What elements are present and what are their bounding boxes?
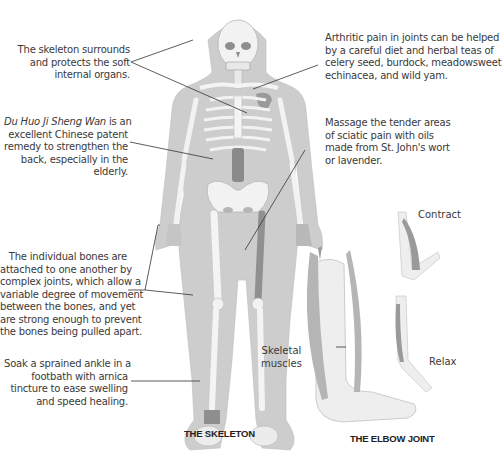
callout-line: attached to one another by xyxy=(0,264,127,277)
callout-line: of sciatic pain with oils xyxy=(325,130,485,143)
callout-line: made from St. John's wort xyxy=(325,142,485,155)
label-contract: Contract xyxy=(418,209,461,222)
callout-line: or lavender. xyxy=(325,155,485,168)
callout-text: is an xyxy=(106,116,132,127)
callout-line: echinacea, and wild yam. xyxy=(325,70,501,83)
callout-line: internal organs. xyxy=(6,69,130,82)
callout-line: excellent Chinese patent xyxy=(4,129,128,142)
callout-line: back, especially in the xyxy=(4,154,128,167)
callout-line: Du Huo Ji Sheng Wan is an xyxy=(4,116,128,129)
elbow-contract-illustration xyxy=(398,212,440,280)
callout-skeleton-protects: The skeleton surrounds and protects the … xyxy=(6,44,130,82)
callout-line: between the bones, and yet xyxy=(0,301,127,314)
callout-line: footbath with arnica xyxy=(4,371,128,384)
callout-line: the bones being pulled apart. xyxy=(0,326,127,339)
callout-line: Arthritic pain in joints can be helped xyxy=(325,32,501,45)
lumbar-spine-highlight xyxy=(232,148,244,182)
callout-du-huo: Du Huo Ji Sheng Wan is an excellent Chin… xyxy=(4,116,128,179)
elbow-relax-illustration xyxy=(396,296,433,392)
label-line: muscles xyxy=(261,358,302,371)
callout-joints: The individual bones are attached to one… xyxy=(0,251,127,339)
callout-ankle: Soak a sprained ankle in a footbath with… xyxy=(4,358,128,408)
label-line: Skeletal xyxy=(261,345,302,358)
callout-line: remedy to strengthen the xyxy=(4,141,128,154)
callout-line: elderly. xyxy=(4,166,128,179)
sternum xyxy=(234,96,242,138)
ankle-highlight xyxy=(204,410,220,424)
callout-line: complex joints, which allow a xyxy=(0,276,127,289)
callout-line: The individual bones are xyxy=(0,251,127,264)
callout-line: celery seed, burdock, meadowsweet, xyxy=(325,57,501,70)
callout-line: The skeleton surrounds xyxy=(6,44,130,57)
caption-skeleton: THE SKELETON xyxy=(184,428,255,439)
label-skeletal-muscles: Skeletal muscles xyxy=(261,345,302,370)
callout-line: are strong enough to prevent xyxy=(0,314,127,327)
callout-arthritic: Arthritic pain in joints can be helped b… xyxy=(325,32,501,82)
callout-line: tincture to ease swelling xyxy=(4,383,128,396)
callout-line: Soak a sprained ankle in a xyxy=(4,358,128,371)
callout-sciatic: Massage the tender areas of sciatic pain… xyxy=(325,117,485,167)
caption-elbow-joint: THE ELBOW JOINT xyxy=(350,433,435,444)
anatomy-figure: The skeleton surrounds and protects the … xyxy=(0,0,502,468)
callout-line: Massage the tender areas xyxy=(325,117,485,130)
left-hand xyxy=(166,224,182,246)
remedy-name: Du Huo Ji Sheng Wan xyxy=(4,116,106,127)
callout-line: and protects the soft xyxy=(6,57,130,70)
label-relax: Relax xyxy=(429,356,456,369)
callout-line: variable degree of movement xyxy=(0,289,127,302)
callout-line: by a careful diet and herbal teas of xyxy=(325,45,501,58)
callout-line: and speed healing. xyxy=(4,396,128,409)
